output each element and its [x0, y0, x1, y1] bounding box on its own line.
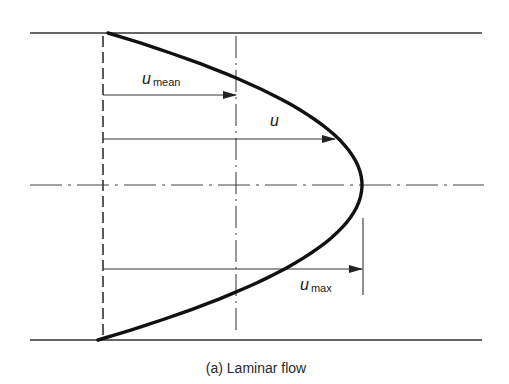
label-u-mean: umean: [142, 70, 180, 88]
diagram-canvas: umean u umax (a) Laminar flow: [0, 0, 509, 384]
u-symbol: u: [270, 112, 279, 129]
u-max-symbol: u: [300, 276, 309, 293]
laminar-flow-diagram: umean u umax (a) Laminar flow: [0, 0, 509, 384]
label-u: u: [270, 112, 279, 129]
label-u-max: umax: [300, 276, 332, 294]
u-max-subscript: max: [311, 282, 332, 294]
u-mean-symbol: u: [142, 70, 151, 87]
figure-caption: (a) Laminar flow: [206, 360, 307, 376]
u-mean-subscript: mean: [153, 76, 181, 88]
